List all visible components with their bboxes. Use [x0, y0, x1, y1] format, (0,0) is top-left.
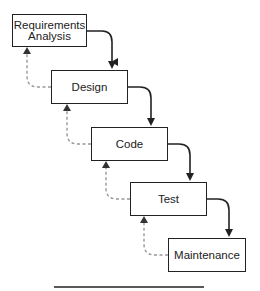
- phase-code: Code: [91, 127, 168, 161]
- phase-design: Design: [51, 70, 128, 104]
- phase-label: Code: [116, 139, 144, 150]
- phase-maintenance: Maintenance: [168, 238, 246, 272]
- phase-requirements-analysis: Requirements Analysis: [12, 14, 87, 47]
- phase-label-line1: Requirements: [14, 20, 86, 31]
- phase-label: Design: [72, 82, 108, 93]
- phase-label-line2: Analysis: [14, 31, 86, 42]
- phase-test: Test: [130, 182, 207, 216]
- phase-label: Test: [158, 194, 179, 205]
- phase-label: Maintenance: [174, 250, 240, 261]
